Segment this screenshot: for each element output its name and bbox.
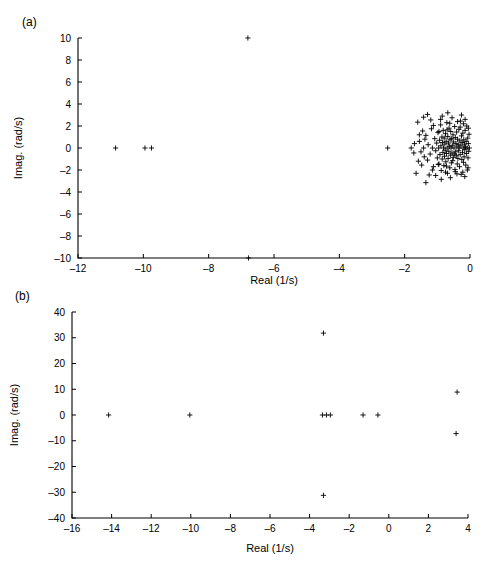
data-point bbox=[428, 151, 433, 156]
data-point bbox=[460, 131, 465, 136]
y-tick-label: ‒20 bbox=[48, 461, 65, 472]
data-point bbox=[142, 145, 147, 150]
data-point bbox=[449, 115, 454, 120]
data-point bbox=[445, 110, 450, 115]
data-point bbox=[106, 412, 111, 417]
data-point bbox=[435, 155, 440, 160]
data-point bbox=[375, 412, 380, 417]
data-point bbox=[436, 129, 441, 134]
y-tick-label: 6 bbox=[65, 77, 71, 88]
figure-root: (a) ‒12‒10‒8‒6‒4‒20‒10‒8‒6‒4‒20246810Rea… bbox=[0, 0, 492, 567]
x-tick-label: ‒8 bbox=[225, 523, 237, 534]
x-tick-label: ‒4 bbox=[334, 263, 346, 274]
data-point bbox=[459, 133, 464, 138]
data-point bbox=[423, 180, 428, 185]
data-point bbox=[458, 118, 463, 123]
data-point bbox=[436, 162, 441, 167]
data-point bbox=[455, 119, 460, 124]
y-tick-label: 0 bbox=[65, 143, 71, 154]
data-point bbox=[425, 112, 430, 117]
panel-b: (b) ‒16‒14‒12‒10‒8‒6‒4‒2024‒40‒30‒20‒100… bbox=[0, 290, 492, 567]
panel-a: (a) ‒12‒10‒8‒6‒4‒20‒10‒8‒6‒4‒20246810Rea… bbox=[0, 0, 492, 290]
y-axis-title: Imag. (rad/s) bbox=[8, 384, 20, 446]
data-point bbox=[430, 145, 435, 150]
data-point bbox=[448, 175, 453, 180]
data-point bbox=[411, 150, 416, 155]
axis-spine bbox=[72, 312, 468, 518]
data-point bbox=[436, 161, 441, 166]
data-point bbox=[412, 141, 417, 146]
data-point bbox=[360, 412, 365, 417]
x-tick-label: ‒8 bbox=[203, 263, 215, 274]
y-tick-label: 4 bbox=[65, 99, 71, 110]
data-point bbox=[422, 137, 427, 142]
data-point bbox=[328, 412, 333, 417]
plot-a-canvas: ‒12‒10‒8‒6‒4‒20‒10‒8‒6‒4‒20246810Real (1… bbox=[0, 0, 492, 290]
data-point bbox=[425, 158, 430, 163]
data-point bbox=[427, 172, 432, 177]
y-tick-label: 10 bbox=[60, 33, 72, 44]
data-point bbox=[454, 129, 459, 134]
data-point bbox=[187, 412, 192, 417]
data-point bbox=[457, 164, 462, 169]
data-point bbox=[423, 133, 428, 138]
data-point bbox=[463, 162, 468, 167]
x-tick-label: ‒6 bbox=[264, 523, 276, 534]
y-tick-label: ‒4 bbox=[60, 187, 72, 198]
plot-b-canvas: ‒16‒14‒12‒10‒8‒6‒4‒2024‒40‒30‒20‒1001020… bbox=[0, 290, 492, 567]
data-point bbox=[454, 431, 459, 436]
data-point bbox=[435, 130, 440, 135]
x-tick-label: ‒2 bbox=[344, 523, 356, 534]
x-tick-label: ‒10 bbox=[182, 523, 199, 534]
x-tick-label: ‒12 bbox=[143, 523, 160, 534]
y-tick-label: ‒8 bbox=[60, 231, 72, 242]
data-point bbox=[418, 149, 423, 154]
x-axis-title: Real (1/s) bbox=[250, 274, 298, 286]
data-point bbox=[422, 154, 427, 159]
x-tick-label: ‒2 bbox=[399, 263, 411, 274]
y-tick-label: 2 bbox=[65, 121, 71, 132]
data-point bbox=[416, 159, 421, 164]
y-tick-label: 20 bbox=[54, 358, 66, 369]
x-tick-label: 4 bbox=[465, 523, 471, 534]
y-tick-label: 30 bbox=[54, 332, 66, 343]
data-point bbox=[419, 162, 424, 167]
data-point bbox=[450, 132, 455, 137]
data-point bbox=[452, 124, 457, 129]
data-point bbox=[459, 112, 464, 117]
y-tick-label: ‒10 bbox=[48, 435, 65, 446]
y-tick-label: ‒10 bbox=[54, 253, 71, 264]
y-tick-label: ‒2 bbox=[60, 165, 72, 176]
x-tick-label: ‒16 bbox=[64, 523, 81, 534]
data-point bbox=[421, 145, 426, 150]
data-point bbox=[246, 255, 251, 260]
data-point bbox=[385, 145, 390, 150]
data-point bbox=[417, 132, 422, 137]
data-point bbox=[447, 121, 452, 126]
y-tick-label: 40 bbox=[54, 307, 66, 318]
data-point bbox=[444, 120, 449, 125]
y-tick-label: ‒30 bbox=[48, 487, 65, 498]
data-point bbox=[149, 145, 154, 150]
x-tick-label: ‒10 bbox=[135, 263, 152, 274]
data-point bbox=[466, 132, 471, 137]
x-tick-label: ‒12 bbox=[70, 263, 87, 274]
data-series bbox=[113, 35, 472, 260]
data-point bbox=[455, 389, 460, 394]
data-point bbox=[439, 134, 444, 139]
data-point bbox=[321, 331, 326, 336]
data-point bbox=[440, 156, 445, 161]
data-point bbox=[467, 145, 472, 150]
data-point bbox=[420, 128, 425, 133]
y-tick-label: 8 bbox=[65, 55, 71, 66]
data-point bbox=[414, 171, 419, 176]
data-point bbox=[439, 177, 444, 182]
x-axis-title: Real (1/s) bbox=[246, 542, 294, 554]
data-point bbox=[417, 139, 422, 144]
data-point bbox=[415, 120, 420, 125]
y-axis-title: Imag. (rad/s) bbox=[12, 117, 24, 179]
x-tick-label: 0 bbox=[386, 523, 392, 534]
x-tick-label: 0 bbox=[467, 263, 473, 274]
data-series bbox=[106, 331, 460, 498]
data-point bbox=[438, 122, 443, 127]
